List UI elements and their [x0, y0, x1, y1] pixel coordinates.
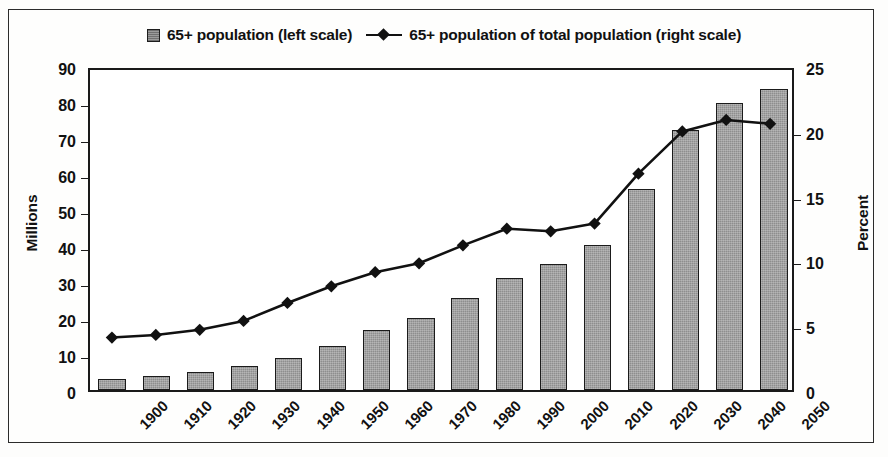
- y-tick-mark-left: [81, 142, 90, 143]
- bar: [451, 298, 478, 390]
- bar: [319, 346, 346, 390]
- y-tick-label-right: 25: [806, 61, 824, 79]
- y-tick-label-left: 80: [58, 97, 76, 115]
- chart-legend: 65+ population (left scale) 65+ populati…: [0, 22, 888, 48]
- y-tick-label-left: 90: [58, 61, 76, 79]
- y-tick-label-right: 10: [806, 255, 824, 273]
- bar: [496, 278, 523, 390]
- y-tick-label-left: 50: [58, 205, 76, 223]
- y-tick-mark-left: [81, 250, 90, 251]
- y-tick-label-left: 60: [58, 169, 76, 187]
- legend-label-line: 65+ population of total population (righ…: [409, 27, 741, 43]
- y-tick-mark-right: [792, 264, 801, 265]
- y-tick-label-right: 15: [806, 191, 824, 209]
- y-tick-mark-left: [81, 358, 90, 359]
- bar: [628, 189, 655, 390]
- bar: [760, 89, 787, 390]
- y-tick-mark-right: [792, 329, 801, 330]
- y-axis-title-left: Millions: [23, 173, 41, 273]
- y-tick-label-right: 20: [806, 126, 824, 144]
- bar: [584, 245, 611, 390]
- y-tick-mark-right: [792, 200, 801, 201]
- bar: [363, 330, 390, 390]
- plot-area: 0102030405060708090 0510152025 190019101…: [88, 68, 794, 392]
- y-tick-label-right: 0: [806, 385, 815, 403]
- bar: [187, 372, 214, 390]
- line-marker-icon: [366, 29, 402, 41]
- bar-swatch-icon: [147, 29, 160, 42]
- legend-label-bars: 65+ population (left scale): [167, 27, 352, 43]
- bar: [98, 379, 125, 390]
- y-tick-label-left: 40: [58, 241, 76, 259]
- legend-entry-bars: 65+ population (left scale): [147, 27, 352, 43]
- legend-entry-line: 65+ population of total population (righ…: [366, 27, 741, 43]
- y-tick-label-right: 5: [806, 320, 815, 338]
- bar: [231, 366, 258, 390]
- y-tick-mark-left: [81, 322, 90, 323]
- bar: [672, 130, 699, 390]
- y-tick-mark-left: [81, 286, 90, 287]
- y-tick-mark-left: [81, 214, 90, 215]
- chart-figure: 65+ population (left scale) 65+ populati…: [0, 0, 888, 457]
- y-tick-mark-left: [81, 106, 90, 107]
- bar: [716, 103, 743, 390]
- y-axis-title-right: Percent: [854, 173, 872, 273]
- y-tick-mark-left: [81, 178, 90, 179]
- y-tick-label-left: 10: [58, 349, 76, 367]
- bar-series-layer: [90, 70, 792, 390]
- bar: [275, 358, 302, 390]
- y-tick-label-left: 30: [58, 277, 76, 295]
- bar: [540, 264, 567, 390]
- y-tick-mark-right: [792, 135, 801, 136]
- y-tick-label-left: 20: [58, 313, 76, 331]
- bar: [407, 318, 434, 390]
- bar: [143, 376, 170, 390]
- y-tick-label-left: 70: [58, 133, 76, 151]
- y-tick-label-left: 0: [67, 385, 76, 403]
